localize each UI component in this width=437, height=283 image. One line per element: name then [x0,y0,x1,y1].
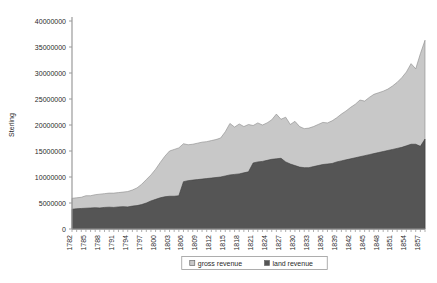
x-axis-tick-label: 1788 [94,235,101,251]
x-axis-tick-label: 1824 [261,235,268,251]
legend-swatch [264,261,269,266]
x-axis-tick-label: 1803 [164,235,171,251]
legend-label: land revenue [272,260,313,267]
x-axis-tick-label: 1797 [136,235,143,251]
x-axis-tick-label: 1800 [150,235,157,251]
x-axis-tick-label: 1836 [317,235,324,251]
x-axis-tick-label: 1809 [191,235,198,251]
x-axis-tick-label: 1854 [400,235,407,251]
y-axis-tick-label: 15000000 [35,148,66,155]
y-axis-tick-label: 10000000 [35,174,66,181]
x-axis-tick-label: 1782 [66,235,73,251]
x-axis-tick-label: 1821 [247,235,254,251]
x-axis-tick-label: 1785 [80,235,87,251]
x-axis-tick-label: 1812 [205,235,212,251]
x-axis-tick-label: 1794 [122,235,129,251]
x-axis-tick-label: 1857 [414,235,421,251]
x-axis-tick-label: 1845 [359,235,366,251]
y-axis-tick-label: 40000000 [35,18,66,25]
revenue-area-chart: 0500000010000000150000002000000025000000… [0,0,437,283]
y-axis-tick-label: 20000000 [35,122,66,129]
x-axis-tick-label: 1833 [303,235,310,251]
x-axis-tick-label: 1842 [345,235,352,251]
legend-swatch [190,261,195,266]
x-axis-tick-label: 1848 [373,235,380,251]
chart-container: 0500000010000000150000002000000025000000… [0,0,437,283]
y-axis-tick-label: 30000000 [35,70,66,77]
x-axis-tick-label: 1827 [275,235,282,251]
x-axis-tick-label: 1839 [331,235,338,251]
y-axis-tick-label: 0 [62,226,66,233]
x-axis-tick-label: 1791 [108,235,115,251]
y-axis-tick-label: 5000000 [39,200,66,207]
x-axis-tick-label: 1806 [177,235,184,251]
x-axis-tick-label: 1815 [219,235,226,251]
x-axis-tick-label: 1830 [289,235,296,251]
y-axis-tick-label: 35000000 [35,44,66,51]
legend-label: gross revenue [198,260,242,268]
x-axis-tick-label: 1818 [233,235,240,251]
x-axis-tick-label: 1851 [386,235,393,251]
y-axis-tick-label: 25000000 [35,96,66,103]
y-axis-title: Sterling [8,113,16,137]
